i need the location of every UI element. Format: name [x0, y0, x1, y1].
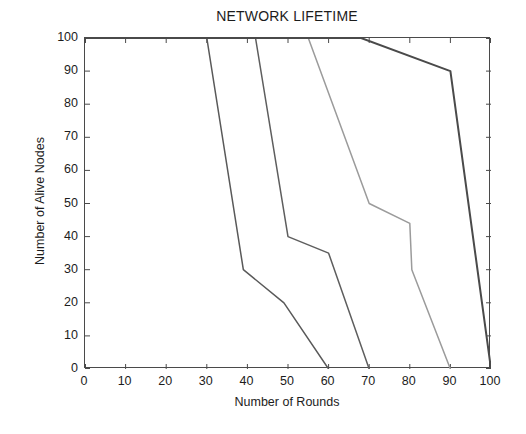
- y-tick-label: 80: [64, 96, 78, 110]
- x-axis-tick-labels: 0102030405060708090100: [84, 374, 490, 392]
- x-tick-label: 30: [199, 374, 213, 388]
- x-tick-label: 90: [442, 374, 456, 388]
- chart-title: NETWORK LIFETIME: [84, 8, 490, 24]
- y-tick-label: 10: [64, 328, 78, 342]
- x-tick-label: 100: [480, 374, 501, 388]
- x-tick-label: 60: [321, 374, 335, 388]
- y-tick-label: 30: [64, 262, 78, 276]
- tick-marks: [85, 38, 491, 369]
- x-tick-label: 20: [158, 374, 172, 388]
- plot-area: [84, 37, 490, 368]
- y-tick-label: 0: [71, 361, 78, 375]
- x-tick-label: 50: [280, 374, 294, 388]
- y-tick-label: 70: [64, 129, 78, 143]
- series-paths: [85, 38, 491, 369]
- series-line-curve-4: [85, 38, 491, 369]
- x-axis-label: Number of Rounds: [84, 395, 490, 409]
- y-tick-label: 20: [64, 295, 78, 309]
- x-tick-label: 40: [239, 374, 253, 388]
- y-tick-label: 100: [57, 30, 78, 44]
- y-tick-label: 50: [64, 196, 78, 210]
- plot-svg: [85, 38, 491, 369]
- x-tick-label: 80: [402, 374, 416, 388]
- y-tick-label: 90: [64, 63, 78, 77]
- x-tick-label: 0: [81, 374, 88, 388]
- series-line-curve-3: [85, 38, 450, 369]
- y-axis-label-wrap: Number of Alive Nodes: [0, 0, 1, 1]
- x-tick-label: 70: [361, 374, 375, 388]
- y-tick-label: 40: [64, 229, 78, 243]
- series-line-curve-1: [85, 38, 329, 369]
- x-tick-label: 10: [118, 374, 132, 388]
- chart-figure: NETWORK LIFETIME 0102030405060708090100 …: [0, 0, 526, 434]
- y-axis-label: Number of Alive Nodes: [33, 111, 47, 291]
- y-tick-label: 60: [64, 162, 78, 176]
